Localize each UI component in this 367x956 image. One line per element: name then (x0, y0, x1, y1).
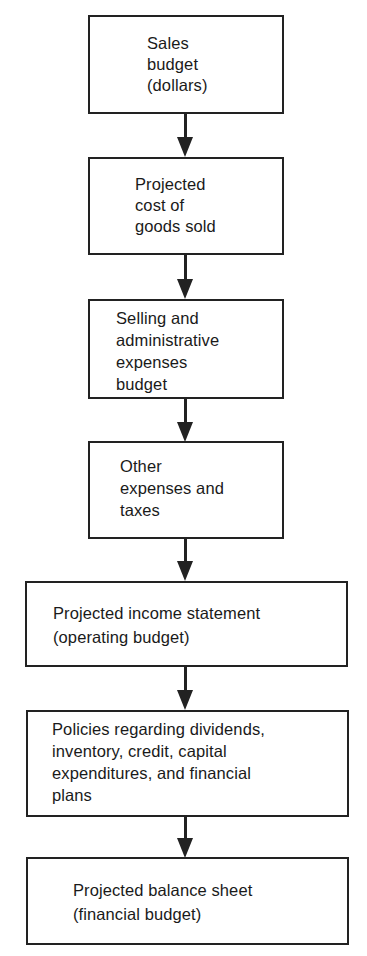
node-label: Projected income statement (operating bu… (53, 601, 260, 649)
node-label: Other expenses and taxes (120, 455, 224, 521)
arrow-down-icon (175, 816, 195, 858)
node-sales-budget: Sales budget (dollars) (88, 15, 284, 114)
node-label: Projected cost of goods sold (135, 174, 216, 237)
node-other-expenses-taxes: Other expenses and taxes (88, 441, 284, 539)
arrow-down-icon (175, 113, 195, 158)
node-label: Projected balance sheet (financial budge… (73, 878, 252, 926)
arrow-down-icon (175, 666, 195, 711)
node-selling-admin-expenses: Selling and administrative expenses budg… (88, 299, 284, 399)
node-label: Selling and administrative expenses budg… (116, 307, 219, 395)
arrow-down-icon (175, 398, 195, 443)
node-label: Sales budget (dollars) (147, 33, 208, 96)
arrow-down-icon (175, 254, 195, 300)
node-projected-income-statement: Projected income statement (operating bu… (25, 581, 348, 667)
node-cost-of-goods-sold: Projected cost of goods sold (88, 157, 284, 255)
arrow-down-icon (175, 538, 195, 582)
node-projected-balance-sheet: Projected balance sheet (financial budge… (26, 857, 349, 945)
node-policies: Policies regarding dividends, inventory,… (26, 710, 349, 817)
node-label: Policies regarding dividends, inventory,… (52, 718, 265, 806)
